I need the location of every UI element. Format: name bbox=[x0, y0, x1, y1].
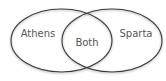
venn-diagram: Athens Both Sparta bbox=[0, 0, 166, 81]
sparta-label: Sparta bbox=[120, 28, 153, 39]
intersection-label: Both bbox=[75, 37, 98, 48]
athens-label: Athens bbox=[21, 28, 56, 39]
